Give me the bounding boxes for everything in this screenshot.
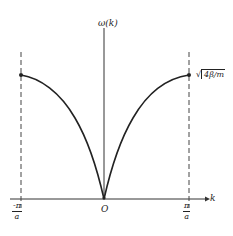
dispersion-curve [21, 75, 189, 199]
x-axis-label: k [210, 194, 215, 203]
origin-point [102, 196, 105, 199]
tick-label-neg-pi-over-a: -π a [12, 202, 22, 221]
y-axis-label: ω(k) [98, 19, 118, 28]
left-endpoint [19, 73, 23, 77]
right-endpoint [187, 73, 191, 77]
dispersion-plot [0, 0, 233, 236]
origin-label: O [101, 205, 108, 214]
tick-label-pi-over-a: π a [183, 202, 190, 221]
max-value-label: √4β/m [196, 70, 225, 79]
